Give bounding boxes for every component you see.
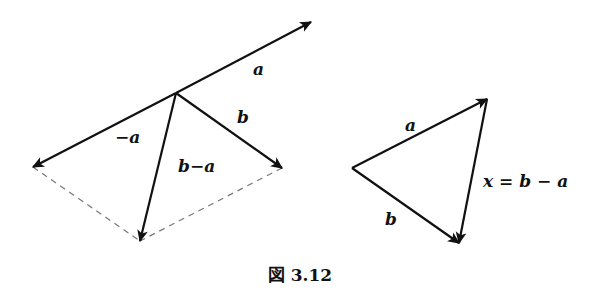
right-diagram: a b x = b − a (352, 99, 568, 243)
dashed-edge-neg-a-to-diff (33, 167, 140, 241)
triangle-vector-a-arrow (352, 99, 487, 168)
label-b-minus-a: b−a (178, 156, 215, 176)
label-a: a (253, 59, 264, 79)
label-neg-a: −a (115, 127, 140, 147)
vector-diagram: a −a b b−a a b x = b − a 図 3.12 (0, 0, 593, 296)
triangle-vector-b-arrow (352, 168, 459, 243)
figure-caption: 図 3.12 (268, 265, 332, 285)
label-b: b (237, 107, 249, 127)
vector-b-minus-a-arrow (140, 93, 176, 241)
dashed-edge-b-to-diff (140, 168, 282, 241)
triangle-label-x-equals-b-minus-a: x = b − a (482, 171, 568, 191)
triangle-label-a: a (405, 115, 416, 135)
left-diagram: a −a b b−a (33, 22, 311, 241)
figure-3-12: a −a b b−a a b x = b − a 図 3.12 (0, 0, 593, 296)
triangle-label-b: b (385, 209, 397, 229)
vector-a-arrow (176, 22, 311, 93)
vector-neg-a-arrow (33, 93, 176, 167)
